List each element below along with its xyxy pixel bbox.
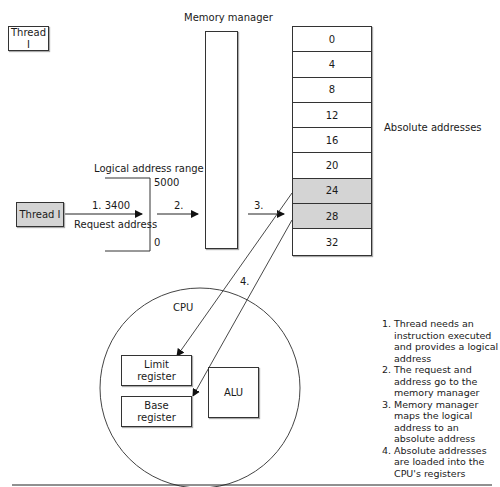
- memory-table: 0 4 8 12 16 20 24 28 32: [292, 26, 372, 256]
- step-number: 4.: [382, 445, 391, 457]
- step-number: 2.: [382, 364, 391, 376]
- memory-address: 28: [326, 211, 339, 222]
- request-caption: Request address: [74, 219, 157, 231]
- thread-top-label: Thread I: [9, 27, 48, 51]
- memory-address: 4: [329, 59, 335, 70]
- arrow-step4-label: 4.: [240, 276, 250, 288]
- step-item-3: 3. Memory manager maps the logical addre…: [382, 399, 500, 445]
- step-text: Absolute addresses are loaded into the C…: [394, 445, 487, 479]
- memory-row-16: 16: [293, 128, 371, 153]
- memory-address: 0: [329, 34, 335, 45]
- step-text: Memory manager maps the logical address …: [394, 399, 478, 445]
- request-step-label: 1. 3400: [92, 200, 130, 212]
- cpu-circle: [100, 288, 300, 487]
- steps-legend: 1. Thread needs an instruction executed …: [382, 318, 500, 479]
- thread-box-request: Thread I: [16, 202, 64, 227]
- memory-row-4: 4: [293, 52, 371, 77]
- step-text: Thread needs an instruction executed and…: [394, 318, 498, 364]
- memory-address: 24: [326, 185, 339, 196]
- alu-box: ALU: [208, 367, 259, 418]
- base-register-box: Base register: [121, 396, 192, 427]
- arrow-step3-label: 3.: [254, 200, 264, 212]
- absolute-addresses-label: Absolute addresses: [384, 122, 482, 134]
- memory-manager-box: [205, 31, 238, 249]
- logical-range-min: 0: [154, 237, 160, 249]
- alu-label: ALU: [224, 387, 243, 399]
- memory-row-8: 8: [293, 78, 371, 103]
- memory-row-0: 0: [293, 27, 371, 52]
- thread-request-label: Thread I: [19, 209, 60, 221]
- memory-address: 32: [326, 237, 339, 248]
- step-number: 1.: [382, 318, 391, 330]
- logical-range-bracket: [105, 178, 150, 251]
- memory-row-20: 20: [293, 153, 371, 178]
- base-register-label: Base register: [130, 400, 183, 424]
- memory-manager-label: Memory manager: [184, 12, 273, 24]
- step-number: 3.: [382, 399, 391, 411]
- memory-address: 16: [326, 135, 339, 146]
- limit-register-label: Limit register: [130, 359, 183, 383]
- cpu-label: CPU: [173, 302, 193, 314]
- logical-range-label: Logical address range: [94, 163, 204, 175]
- memory-row-12: 12: [293, 103, 371, 128]
- memory-row-24-highlighted: 24: [293, 179, 371, 204]
- memory-address: 8: [329, 84, 335, 95]
- step-text: The request and address go to the memory…: [394, 364, 479, 398]
- memory-address: 12: [326, 110, 339, 121]
- step-item-1: 1. Thread needs an instruction executed …: [382, 318, 500, 364]
- step-item-2: 2. The request and address go to the mem…: [382, 364, 500, 399]
- memory-row-32: 32: [293, 229, 371, 254]
- logical-range-max: 5000: [154, 177, 179, 189]
- limit-register-box: Limit register: [121, 355, 192, 386]
- memory-address: 20: [326, 160, 339, 171]
- step-item-4: 4. Absolute addresses are loaded into th…: [382, 445, 500, 480]
- arrow-step2-label: 2.: [174, 200, 184, 212]
- thread-box-top: Thread I: [8, 26, 49, 51]
- memory-row-28-highlighted: 28: [293, 204, 371, 229]
